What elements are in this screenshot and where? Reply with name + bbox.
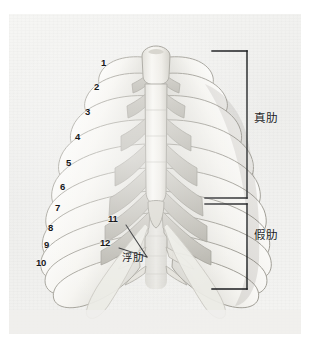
rib-label-1: 1 bbox=[101, 58, 106, 68]
ribs-left-side bbox=[41, 57, 151, 308]
rib-label-10: 10 bbox=[36, 258, 46, 268]
rib-cage-illustration bbox=[9, 14, 301, 334]
rib-label-11: 11 bbox=[108, 214, 118, 224]
illustration-panel bbox=[9, 14, 301, 334]
sternum-body bbox=[145, 84, 167, 204]
rib-label-4: 4 bbox=[75, 132, 80, 142]
rib-label-6: 6 bbox=[60, 182, 65, 192]
rib-label-12: 12 bbox=[100, 238, 110, 248]
rib-label-7: 7 bbox=[55, 203, 60, 213]
rib-label-3: 3 bbox=[85, 107, 90, 117]
rib-label-8: 8 bbox=[48, 223, 53, 233]
rib-label-9: 9 bbox=[44, 240, 49, 250]
false-ribs-label: 假肋 bbox=[254, 230, 278, 242]
rib-label-5: 5 bbox=[66, 158, 71, 168]
floating-ribs-label: 浮肋 bbox=[122, 252, 143, 263]
rib-label-2: 2 bbox=[94, 82, 99, 92]
true-ribs-label: 真肋 bbox=[254, 113, 278, 125]
figure-root: 1 2 3 4 5 6 7 8 9 10 11 12 浮肋 真肋 假肋 bbox=[0, 0, 310, 349]
